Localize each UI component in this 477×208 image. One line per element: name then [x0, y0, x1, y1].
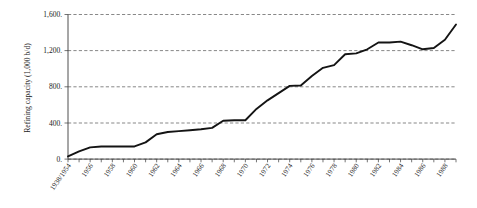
x-tick-label-1968: 1968	[213, 162, 228, 179]
x-tick-label-1958: 1958	[102, 162, 117, 179]
x-tick-label-1976: 1976	[302, 162, 317, 179]
y-tick-label-800: 800.	[49, 82, 62, 91]
x-tick-label-1970: 1970	[235, 162, 250, 179]
y-tick-label-1600: 1,600.	[43, 10, 62, 19]
refining-capacity-line-chart: Refining capacity (1,000 b/d) 1,600. 1,2…	[0, 0, 477, 208]
x-tick-marks	[68, 159, 456, 162]
x-tick-label-1960: 1960	[125, 162, 140, 179]
y-tick-label-0: 0.	[56, 155, 62, 164]
x-tick-label-1974: 1974	[280, 162, 295, 179]
x-tick-labels: 1938/19541956195819601962196419661968197…	[49, 162, 450, 192]
chart-figure: Refining capacity (1,000 b/d) 1,600. 1,2…	[0, 0, 477, 208]
x-tick-label-1980: 1980	[346, 162, 361, 179]
x-tick-label-1986: 1986	[413, 162, 428, 179]
x-tick-label-1962: 1962	[147, 162, 162, 179]
x-tick-label-1984: 1984	[391, 162, 406, 179]
x-tick-label-1938/1954: 1938/1954	[49, 162, 73, 192]
y-axis-title: Refining capacity (1,000 b/d)	[23, 43, 32, 133]
y-tick-labels: 1,600. 1,200. 800. 400. 0.	[43, 10, 62, 164]
y-tick-label-1200: 1,200.	[43, 46, 62, 55]
x-tick-label-1966: 1966	[191, 162, 206, 179]
x-tick-label-1978: 1978	[324, 162, 339, 179]
x-tick-label-1964: 1964	[169, 162, 184, 179]
gridlines	[68, 15, 456, 160]
x-tick-label-1982: 1982	[368, 162, 383, 179]
x-tick-label-1956: 1956	[80, 162, 95, 179]
x-tick-label-1988: 1988	[435, 162, 450, 179]
series-line-refining-capacity	[68, 24, 456, 156]
y-tick-marks	[65, 15, 69, 160]
x-tick-label-1972: 1972	[258, 162, 273, 179]
y-tick-label-400: 400.	[49, 119, 62, 128]
